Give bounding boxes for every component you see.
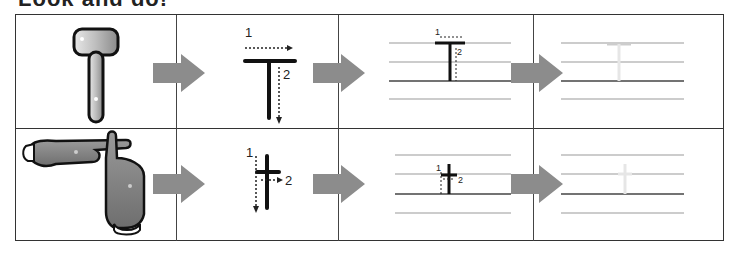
row-capital-t: 1 2 1 — [16, 15, 723, 129]
independent-practice-cell[interactable] — [534, 15, 725, 128]
row-lowercase-t: 1 2 1 — [16, 128, 723, 241]
stroke-number-2: 2 — [283, 67, 290, 82]
trace-lines-T[interactable] — [534, 15, 725, 128]
guided-practice-cell: 1 2 — [339, 128, 534, 241]
independent-practice-cell[interactable] — [534, 128, 725, 241]
stroke-number-2: 2 — [285, 173, 292, 188]
guided-trace-T: 1 2 — [339, 15, 534, 128]
picture-cell — [16, 15, 177, 128]
stroke-number-1: 1 — [245, 25, 252, 40]
page-title: Look and do! — [18, 0, 168, 12]
stroke-order-cell: 1 2 — [177, 128, 339, 241]
svg-text:2: 2 — [458, 175, 463, 185]
svg-text:1: 1 — [436, 163, 441, 173]
picture-cell — [16, 128, 177, 241]
guided-practice-cell: 1 2 — [339, 15, 534, 128]
svg-text:2: 2 — [457, 47, 462, 57]
stroke-number-1: 1 — [246, 145, 253, 160]
stroke-order-cell: 1 2 — [177, 15, 339, 128]
svg-text:1: 1 — [435, 27, 440, 37]
trace-lines-t[interactable] — [534, 128, 725, 241]
worksheet-grid: 1 2 1 — [15, 14, 724, 241]
guided-trace-t: 1 2 — [339, 128, 534, 241]
